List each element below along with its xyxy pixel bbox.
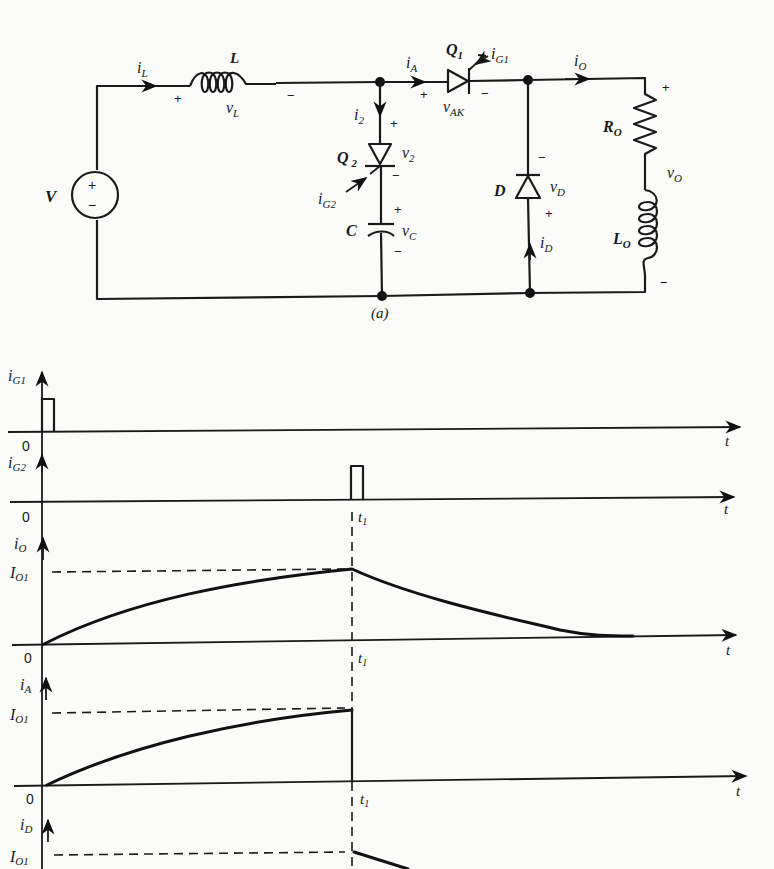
circuit-schematic — [72, 55, 657, 301]
current-iO-label: iO — [574, 52, 586, 72]
output-voltage-label: vO — [667, 164, 682, 184]
current-iD-label: iD — [540, 234, 552, 254]
gate-iG2-arrow-icon — [346, 178, 366, 192]
output-plus: + — [662, 80, 670, 95]
time-label-iG2: t — [724, 501, 729, 517]
output-minus: − — [660, 275, 668, 290]
capacitor-minus: − — [394, 244, 402, 259]
waveform-iA-curve — [47, 710, 352, 785]
inductor-LO-symbol — [639, 190, 657, 276]
thyristor-Q1-symbol — [448, 70, 468, 92]
time-label-iO: t — [726, 642, 731, 658]
current-iL-label: iL — [137, 59, 148, 79]
current-iA-label: iA — [406, 54, 417, 74]
diode-label: D — [493, 182, 506, 199]
Q2-plus: + — [390, 116, 398, 131]
current-i2-label: i2 — [354, 106, 364, 126]
wire-Q1-to-node — [469, 80, 528, 81]
ylabel-iD: iD — [20, 816, 32, 835]
ylabel-iG2: iG2 — [8, 454, 26, 473]
figure-canvas: V + − iL L + − vL i2 + Q2 v2 − iG2 + C v… — [0, 0, 774, 869]
gate-iG1-label: iG1 — [491, 45, 509, 65]
time-axis-iG1 — [8, 427, 740, 432]
source-label: V — [45, 187, 58, 206]
wire-C-to-bottom — [381, 233, 382, 296]
gate-pulse-iG2 — [351, 466, 363, 499]
wire-L-to-node — [276, 82, 380, 83]
t1-label-iO: t1 — [358, 650, 367, 668]
resistor-RO-label: RO — [602, 118, 622, 138]
Q1-minus: − — [481, 86, 489, 101]
time-label-iG1: t — [725, 433, 730, 449]
trace-iG1: iG1 0 t — [8, 367, 740, 454]
diode-D-symbol — [516, 176, 540, 198]
resistor-RO-symbol — [634, 86, 656, 190]
source-minus: − — [88, 197, 96, 213]
Q1-voltage: vAK — [443, 98, 465, 118]
thyristor-Q2-gate-line — [370, 166, 380, 174]
trace-iA: iA IO1 0 t1 t — [9, 676, 746, 809]
wire-load-return — [528, 276, 645, 293]
trace-iO: iO IO1 0 t1 t — [9, 535, 736, 668]
time-axis-iA — [14, 776, 746, 786]
origin-label-iG1: 0 — [22, 438, 30, 454]
figure-caption: (a) — [371, 305, 389, 322]
level-IO1-label-iD: IO1 — [9, 848, 29, 867]
thyristor-Q1-gate-line — [469, 58, 482, 70]
capacitor-label: C — [346, 222, 357, 239]
level-IO1-label-iO: IO1 — [9, 564, 29, 583]
inductor-LO-label: LO — [612, 230, 631, 250]
diode-voltage: vD — [550, 178, 565, 198]
inductor-L-plus: + — [174, 91, 182, 106]
thyristor-Q2-symbol — [369, 144, 391, 164]
Q2-minus: − — [392, 168, 400, 183]
ylabel-iO: iO — [14, 535, 26, 554]
level-IO1-dashed-iD — [54, 852, 345, 855]
waveform-iD-curve — [354, 852, 408, 869]
inductor-L-voltage: vL — [226, 99, 239, 119]
waveform-iO-curve — [44, 569, 633, 644]
trace-iD: iD IO1 — [9, 816, 408, 869]
inductor-L-symbol — [190, 73, 276, 93]
time-label-iA: t — [736, 783, 741, 799]
level-IO1-label-iA: IO1 — [9, 706, 29, 725]
origin-label-iG2: 0 — [22, 509, 30, 525]
diode-plus: + — [545, 206, 553, 221]
diode-minus: − — [538, 150, 546, 165]
ylabel-iA: iA — [20, 676, 31, 695]
gate-iG1-arrow-icon — [476, 56, 488, 64]
t1-label-iA: t1 — [360, 791, 369, 809]
time-axis-iG2 — [10, 497, 734, 502]
gate-pulse-iG1 — [42, 399, 54, 431]
level-IO1-dashed-iA — [52, 708, 345, 713]
thyristor-Q2-label: Q2 — [337, 149, 358, 169]
level-IO1-dashed-iO — [52, 569, 345, 572]
thyristor-Q1-gate-arrow-icon — [478, 55, 486, 56]
trace-iG2: iG2 0 t1 t — [8, 454, 734, 527]
origin-label-iO: 0 — [24, 650, 32, 666]
inductor-L-minus: − — [287, 88, 295, 103]
origin-label-iA: 0 — [26, 791, 34, 807]
source-plus: + — [88, 177, 96, 193]
inductor-L-label: L — [229, 50, 239, 66]
t1-label-iG2: t1 — [358, 509, 367, 527]
capacitor-voltage: vC — [402, 222, 417, 242]
wire-bottom-return — [97, 220, 530, 299]
Q2-voltage: v2 — [402, 144, 415, 164]
thyristor-Q1-label: Q1 — [446, 41, 463, 61]
capacitor-plus: + — [394, 202, 402, 217]
waveform-plots: iG1 0 t iG2 0 t1 t iO IO1 0 t1 t — [8, 367, 746, 869]
Q1-plus: + — [420, 87, 428, 102]
ylabel-iG1: iG1 — [8, 367, 26, 386]
gate-iG2-label: iG2 — [318, 190, 336, 210]
